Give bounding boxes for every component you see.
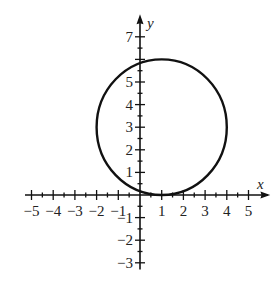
plotted-curves — [97, 59, 227, 195]
y-tick-label: −1 — [117, 210, 133, 226]
y-axis-arrow-icon — [137, 14, 144, 24]
x-tick-label: −4 — [45, 203, 61, 219]
y-tick-label: 2 — [126, 142, 134, 158]
x-tick-label: 3 — [201, 203, 209, 219]
y-axis-label: y — [145, 15, 154, 31]
y-tick-label: 4 — [126, 97, 134, 113]
x-tick-label: −5 — [24, 203, 40, 219]
y-tick-label: 3 — [126, 119, 134, 135]
x-tick-label: −3 — [67, 203, 83, 219]
x-tick-label: 4 — [223, 203, 231, 219]
x-tick-label: 1 — [158, 203, 166, 219]
y-tick-label: 7 — [126, 29, 134, 45]
coordinate-plane: −5−4−3−2−112345−3−2−1123457 x y — [0, 0, 276, 288]
axes — [25, 14, 270, 269]
x-tick-label: 5 — [245, 203, 253, 219]
x-tick-label: −2 — [89, 203, 105, 219]
ticks — [32, 37, 249, 263]
y-tick-label: 5 — [126, 74, 134, 90]
y-tick-label: 1 — [126, 164, 134, 180]
y-tick-label: −3 — [117, 255, 133, 271]
x-tick-label: 2 — [180, 203, 188, 219]
x-axis-arrow-icon — [260, 192, 270, 199]
x-axis-label: x — [256, 176, 264, 192]
y-tick-label: −2 — [117, 232, 133, 248]
circle-curve — [97, 59, 227, 195]
